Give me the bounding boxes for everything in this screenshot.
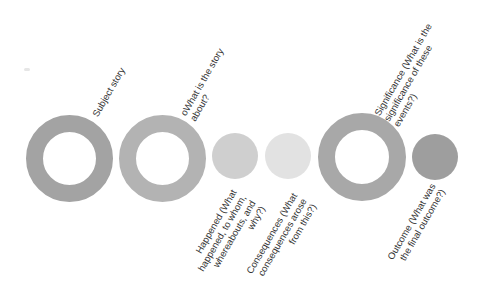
label-significance: Significance (What is the significance o…: [372, 21, 453, 128]
node-about-ring: [119, 115, 206, 202]
node-subject-ring: [26, 115, 113, 202]
node-outcome-disc: [412, 134, 458, 180]
label-outcome: Outcome (What was the final outcome?): [385, 181, 447, 267]
node-significance-ring: [318, 113, 406, 201]
node-consequences-disc: [265, 133, 311, 179]
label-subject-story: Subject story: [90, 65, 127, 118]
scan-smudge: [24, 68, 30, 71]
node-happened-disc: [212, 133, 258, 179]
label-what-is-story-about: oWhat is the story about?: [178, 46, 235, 123]
